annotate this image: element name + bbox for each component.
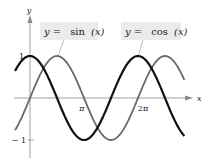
y-axis-arrow-icon [28, 15, 33, 23]
x-axis-label: x [197, 94, 202, 103]
y-axis-label: y [26, 6, 32, 15]
sin-leader-line [58, 40, 64, 56]
tick-label-1: 1 [19, 52, 24, 61]
tick-label-pi: π [78, 104, 85, 113]
x-axis-arrow-icon [185, 96, 193, 101]
cos-leader-line [138, 40, 143, 57]
sin-cos-chart: y = sin (x) y = cos (x) y x π 2π 1 − 1 [0, 0, 214, 165]
tick-label-neg1: − 1 [12, 136, 26, 145]
tick-label-2pi: 2π [138, 104, 148, 113]
